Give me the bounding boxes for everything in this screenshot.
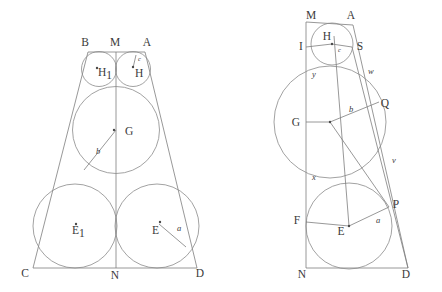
right-vertex-label-M: M — [306, 9, 316, 21]
right-center-dot-E — [348, 225, 350, 227]
right-vertex-label-F: F — [294, 214, 300, 226]
right-label-y: y — [311, 69, 316, 79]
left-center-label-E: E — [152, 224, 159, 236]
right-label-w: w — [368, 66, 374, 76]
left-vertex-label-N: N — [111, 269, 120, 281]
left-vertex-label-A: A — [143, 36, 152, 48]
right-center-label-H: H — [323, 30, 331, 42]
right-center-dot-H — [331, 43, 333, 45]
right-vertex-label-D: D — [402, 268, 410, 280]
left-vertex-label-D: D — [196, 267, 204, 279]
right-vertex-label-N: N — [298, 268, 307, 280]
left-center-label-H: H — [135, 67, 143, 79]
left-vertex-label-M: M — [110, 36, 120, 48]
left-center-dot-G — [113, 129, 115, 131]
right-vertex-label-Q: Q — [381, 97, 390, 109]
right-label-a: a — [376, 215, 380, 225]
right-center-dot-G — [329, 121, 331, 123]
right-label-c: c — [338, 46, 341, 53]
left-center-dot-E — [159, 221, 161, 223]
geometry-canvas: B M A C N D H1 H G E1 E c b a — [0, 0, 442, 292]
left-radius-label-c: c — [138, 55, 141, 62]
left-vertex-label-B: B — [81, 36, 89, 48]
right-vertex-label-E: E — [337, 225, 344, 237]
right-vertex-label-A: A — [347, 9, 356, 21]
left-radius-label-b: b — [96, 146, 100, 156]
right-vertex-label-G: G — [292, 116, 300, 128]
right-label-v: v — [392, 155, 396, 165]
left-center-dot-H — [132, 66, 134, 68]
right-label-x: x — [311, 172, 316, 182]
right-vertex-label-P: P — [393, 198, 399, 210]
left-vertex-label-C: C — [21, 267, 29, 279]
geometry-figure-root: B M A C N D H1 H G E1 E c b a — [0, 0, 442, 292]
right-vertex-label-S: S — [357, 40, 363, 52]
right-vertex-label-I: I — [299, 40, 303, 52]
canvas-background — [0, 0, 442, 292]
right-label-b: b — [349, 104, 353, 114]
left-center-label-G: G — [125, 125, 133, 137]
left-radius-label-a: a — [177, 223, 181, 233]
